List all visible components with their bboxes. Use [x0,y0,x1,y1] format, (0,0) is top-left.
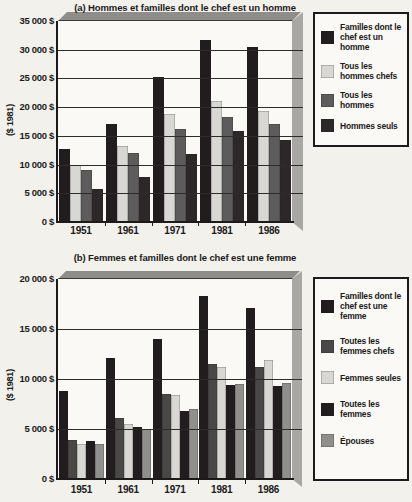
chart-b-3d-top-slab [58,271,300,279]
chart-b-x-tick-label-1951: 1951 [59,484,104,495]
legend-item-b-2: Femmes seules [321,371,403,384]
bar-1971-series-2 [175,129,186,222]
legend-label-b-2: Femmes seules [340,373,401,383]
chart-a-3d-right-wall [292,12,303,231]
chart-a-3d-top-slab [58,12,301,21]
chart-b-y-tick-label-4: 0 $ [0,473,54,484]
legend-label-b-1: Toutes les femmes chefs [340,336,394,356]
bar-1971-series-3 [180,411,189,479]
chart-a-gridline-30000 [58,50,303,51]
bar-1961-series-3 [133,427,142,479]
chart-a-gridline-25000 [58,78,303,79]
chart-a-legend-box: Familles dont le chef est un hommeTous l… [313,12,409,147]
bar-1961-series-2 [128,153,139,222]
bar-1986-series-1 [258,111,269,222]
bar-1961-series-4 [142,429,151,479]
chart-a-bar-group-1986 [247,47,291,222]
legend-label-a-2: Tous les hommes [340,90,374,110]
legend-swatch-b-4 [321,434,334,447]
bar-1951-series-4 [95,444,104,479]
chart-b-x-axis-line [56,478,294,480]
bar-1986-series-3 [273,386,282,479]
chart-a-gridline-10000 [58,165,303,166]
bar-1961-series-3 [139,177,150,222]
legend-item-b-1: Toutes les femmes chefs [321,336,403,356]
chart-a-x-labels-row: 19511961197119811986 [58,225,292,236]
chart-a-y-axis-line [56,21,58,223]
legend-label-b-3: Toutes les femmes [340,399,379,419]
legend-swatch-a-3 [321,119,334,132]
legend-swatch-b-2 [321,371,334,384]
bar-1981-series-3 [233,131,244,222]
chart-b-bar-group-1986 [246,308,291,479]
chart-a-x-axis-line [56,221,294,223]
figure-stage: (a) Hommes et familles dont le chef est … [0,0,412,502]
chart-a-y-tick-label-0: 35 000 $ [0,15,54,26]
chart-b-y-axis-unit-label: ($ 1981) [5,355,17,415]
chart-b-y-tick-label-3: 5 000 $ [0,423,54,434]
chart-a-y-tick-label-6: 5 000 $ [0,187,54,198]
chart-b-title: (b) Femmes et familles dont le chef est … [50,252,320,263]
bar-1971-series-1 [164,114,175,222]
bar-1981-series-0 [199,296,208,479]
bar-1986-series-2 [264,360,273,479]
bar-1971-series-2 [171,395,180,479]
bar-1981-series-1 [211,101,222,222]
legend-item-a-1: Tous les hommes chefs [321,61,403,81]
bar-1951-series-2 [77,444,86,479]
chart-a-x-tick-label-1961: 1961 [106,225,150,236]
chart-a-bar-group-1961 [106,124,150,222]
chart-b-gridline-10000 [58,379,302,380]
chart-a-y-tick-label-5: 10 000 $ [0,159,54,170]
chart-a-title: (a) Hommes et familles dont le chef est … [50,2,320,13]
chart-a-gridline-15000 [58,136,303,137]
legend-swatch-b-0 [321,300,334,313]
figure-page: (a) Hommes et familles dont le chef est … [0,0,412,502]
legend-item-a-0: Familles dont le chef est un homme [321,22,403,52]
legend-item-b-0: Familles dont le chef est une femme [321,291,403,321]
chart-b-y-tick-label-1: 15 000 $ [0,323,54,334]
chart-b-bar-group-1961 [106,358,151,479]
chart-b-gridline-5000 [58,429,302,430]
bar-1981-series-4 [235,384,244,479]
legend-swatch-b-3 [321,403,334,416]
legend-item-b-3: Toutes les femmes [321,399,403,419]
chart-b-x-tick-label-1961: 1961 [106,484,151,495]
chart-a-gridline-5000 [58,193,303,194]
chart-b-y-tick-label-0: 20 000 $ [0,273,54,284]
bar-1951-series-3 [86,441,95,479]
chart-b-y-axis-line [56,279,58,480]
chart-a-y-axis-unit-label: ($ 1981) [5,90,17,150]
chart-a-y-tick-label-7: 0 $ [0,216,54,227]
chart-b-x-tick-label-1971: 1971 [153,484,198,495]
bar-1986-series-3 [280,140,291,222]
chart-a-bars-row [58,21,292,222]
legend-swatch-a-1 [321,65,334,78]
bar-1971-series-0 [153,77,164,222]
bar-1981-series-0 [200,40,211,222]
legend-label-a-1: Tous les hommes chefs [340,61,397,81]
chart-b-x-labels-row: 19511961197119811986 [58,484,292,495]
chart-a-x-tick-label-1986: 1986 [247,225,291,236]
chart-a-x-tick-label-1951: 1951 [59,225,103,236]
bar-1971-series-1 [162,394,171,479]
bar-1986-series-2 [269,124,280,222]
chart-b-x-tick-label-1986: 1986 [246,484,291,495]
legend-swatch-b-1 [321,340,334,353]
bar-1951-series-0 [59,149,70,222]
legend-label-b-0: Familles dont le chef est une femme [340,291,401,321]
bar-1961-series-2 [124,424,133,479]
bar-1971-series-4 [189,409,198,479]
bar-1961-series-0 [106,124,117,222]
chart-b-x-tick-label-1981: 1981 [199,484,244,495]
bar-1951-series-1 [68,440,77,479]
chart-a-y-tick-label-2: 25 000 $ [0,72,54,83]
bar-1981-series-2 [222,117,233,222]
chart-a-bar-group-1981 [200,40,244,222]
bar-1986-series-0 [247,47,258,222]
legend-label-a-0: Familles dont le chef est un homme [340,22,401,52]
legend-swatch-a-0 [321,31,334,44]
legend-item-a-3: Hommes seuls [321,119,403,132]
bar-1961-series-1 [115,418,124,479]
bar-1981-series-2 [217,367,226,479]
